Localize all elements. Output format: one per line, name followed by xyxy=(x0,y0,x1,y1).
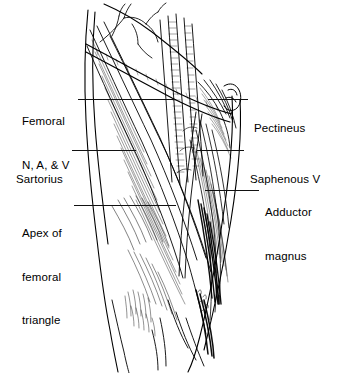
leader-line-pectineus xyxy=(208,99,248,100)
distal-muscle-fibres xyxy=(128,250,177,320)
fascial-tufts xyxy=(125,290,155,336)
lower-contours xyxy=(112,300,204,373)
sartorius-muscle xyxy=(87,22,211,334)
label-apex-line3: triangle xyxy=(22,313,62,328)
leader-line-sartorius xyxy=(72,150,136,151)
label-sartorius-line1: Sartorius xyxy=(16,172,63,187)
drawing-ink xyxy=(85,3,241,373)
label-apex-line2: femoral xyxy=(22,270,62,285)
label-adductor-line2: magnus xyxy=(265,249,312,264)
leader-line-femoral xyxy=(78,99,176,100)
label-apex-line1: Apex of xyxy=(22,226,62,241)
leader-line-apex xyxy=(74,205,176,206)
superficial-vessel-branches xyxy=(100,3,166,58)
label-apex-femoral-triangle: Apex of femoral triangle xyxy=(22,197,62,357)
inguinal-ligament-hatch xyxy=(96,49,218,111)
label-pectineus-line1: Pectineus xyxy=(254,121,305,136)
label-adductor-magnus: Adductor magnus xyxy=(265,176,312,292)
leader-line-saphenous xyxy=(197,150,244,151)
label-adductor-line1: Adductor xyxy=(265,205,312,220)
label-femoral-nav-line1: Femoral xyxy=(22,114,70,129)
anatomical-figure: Femoral N, A, & V Sartorius Apex of femo… xyxy=(0,0,343,373)
saphenous-vein xyxy=(179,112,202,278)
pectineus-muscle xyxy=(198,80,236,148)
